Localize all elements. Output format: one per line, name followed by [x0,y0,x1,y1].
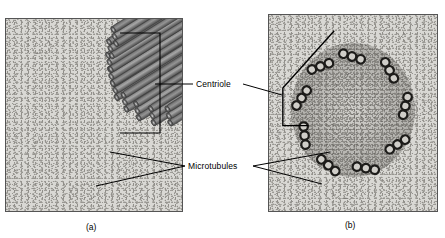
centriole-figure: Centriole Microtubules (a) (b) [0,0,445,238]
leader-microtubules-a1 [110,152,185,166]
leader-microtubules-b1 [253,152,330,166]
label-centriole: Centriole [196,79,231,89]
caption-panel-b: (b) [345,220,355,230]
label-microtubules: Microtubules [188,161,237,171]
leader-microtubules-b2 [253,166,322,184]
leader-microtubules-a2 [96,166,185,186]
leader-centriole-b [243,84,282,95]
caption-panel-a: (a) [86,222,96,232]
leader-lines [0,0,445,238]
